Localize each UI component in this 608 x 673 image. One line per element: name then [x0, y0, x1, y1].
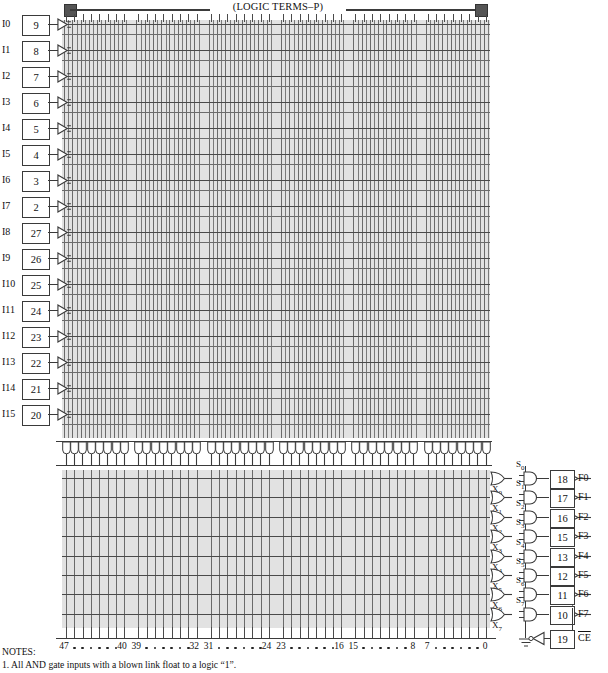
or-column-line: [355, 470, 356, 628]
input-pin-box[interactable]: 25: [22, 275, 50, 296]
and-column-line: [182, 20, 183, 438]
or-column-line: [163, 470, 164, 628]
and-row-line: [62, 34, 490, 35]
and-column-line: [234, 20, 235, 438]
header-tick: [163, 14, 164, 22]
or-column-line: [341, 470, 342, 628]
and-column-line: [199, 20, 200, 438]
or-column-line: [155, 470, 156, 628]
and-row-line: [62, 388, 490, 389]
header-tick: [188, 14, 189, 22]
input-row: I54: [0, 145, 62, 167]
input-buffer-icon: [57, 69, 70, 84]
axis-tick: [436, 627, 437, 638]
axis-tick: [478, 627, 479, 638]
and-column-line: [153, 20, 154, 438]
input-label: I2: [2, 70, 22, 81]
and-row-line: [62, 294, 490, 295]
or-column-line: [252, 470, 253, 628]
input-pin-box[interactable]: 21: [22, 379, 50, 400]
and-column-line: [238, 20, 239, 438]
input-pin-box[interactable]: 9: [22, 15, 50, 36]
input-row: I1025: [0, 275, 62, 297]
input-pin-box[interactable]: 7: [22, 67, 50, 88]
and-column-line: [455, 20, 456, 438]
axis-tick: [261, 627, 262, 638]
and-row-line: [62, 164, 490, 165]
input-label: I14: [2, 382, 22, 393]
and-column-line: [281, 20, 282, 438]
input-buffer-icon: [57, 121, 70, 136]
axis-tick: [397, 627, 398, 638]
input-pin-box[interactable]: 26: [22, 249, 50, 270]
input-pin-box[interactable]: 3: [22, 171, 50, 192]
input-buffer-icon: [57, 225, 70, 240]
and-column-line: [335, 20, 336, 438]
input-pin-box[interactable]: 5: [22, 119, 50, 140]
header-tick: [469, 14, 470, 22]
header-tick: [147, 14, 148, 22]
input-pin-box[interactable]: 2: [22, 197, 50, 218]
axis-tick: [300, 627, 301, 638]
and-column-line: [209, 20, 210, 438]
axis-tick: [188, 627, 189, 638]
or-column-line: [138, 470, 139, 628]
or-column-line: [116, 470, 117, 628]
axis-tick: [355, 627, 356, 638]
and-column-line: [81, 20, 82, 438]
and-column-line: [442, 20, 443, 438]
input-pin-box[interactable]: 22: [22, 353, 50, 374]
and-column-line: [447, 20, 448, 438]
header-tick: [116, 14, 117, 22]
product-term-and-gate: [337, 441, 346, 466]
axis-tick: [405, 627, 406, 638]
and-column-line: [358, 20, 359, 438]
header-tick: [453, 14, 454, 22]
axis-tick: [172, 627, 173, 638]
input-pin-box[interactable]: 4: [22, 145, 50, 166]
input-row: I1322: [0, 353, 62, 375]
input-pin-box[interactable]: 20: [22, 405, 50, 426]
input-buffer-icon: [57, 199, 70, 214]
input-label: I15: [2, 408, 22, 419]
and-column-line: [93, 20, 94, 438]
input-row: I926: [0, 249, 62, 271]
and-column-line: [161, 20, 162, 438]
and-column-line: [383, 20, 384, 438]
input-pin-box[interactable]: 24: [22, 301, 50, 322]
axis-tick: [469, 627, 470, 638]
or-row-line: [62, 575, 490, 576]
header-tick: [397, 14, 398, 22]
or-row-line: [62, 536, 490, 537]
axis-tick: [364, 627, 365, 638]
input-pin-box[interactable]: 27: [22, 223, 50, 244]
input-buffer-icon: [57, 95, 70, 110]
axis-tick: [91, 627, 92, 638]
input-pin-box[interactable]: 6: [22, 93, 50, 114]
input-pin-box[interactable]: 23: [22, 327, 50, 348]
header-tick: [269, 14, 270, 22]
header-tick: [355, 14, 356, 22]
input-row: I45: [0, 119, 62, 141]
axis-tick: [108, 627, 109, 638]
header-label: (LOGIC TERMS–P): [210, 1, 346, 12]
product-term-number: 7: [425, 641, 430, 651]
or-column-line: [300, 470, 301, 628]
or-column-line: [74, 470, 75, 628]
axis-tick: [236, 627, 237, 638]
product-term-dot: [451, 647, 454, 650]
and-column-line: [370, 20, 371, 438]
product-term-ticks: [56, 627, 496, 639]
and-column-line: [471, 20, 472, 438]
input-pin-box[interactable]: 8: [22, 41, 50, 62]
header-tick: [389, 14, 390, 22]
and-column-line: [242, 20, 243, 438]
or-column-line: [469, 470, 470, 628]
chip-enable-pin-box[interactable]: 19: [550, 630, 575, 649]
or-column-line: [197, 470, 198, 628]
and-row-line: [62, 372, 490, 373]
header-tick: [211, 14, 212, 22]
and-column-line: [378, 20, 379, 438]
header-tick: [197, 14, 198, 22]
and-column-line: [467, 20, 468, 438]
